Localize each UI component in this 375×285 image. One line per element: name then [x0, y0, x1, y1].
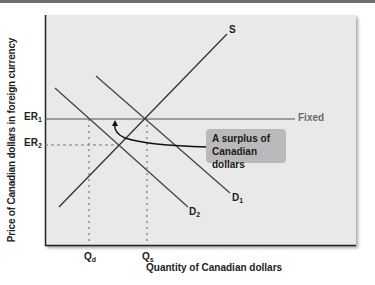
- y-axis-label: Price of Canadian dollars in foreign cur…: [4, 40, 18, 240]
- supply-curve-s: [59, 34, 227, 207]
- x-axis-label: Quantity of Canadian dollars: [146, 262, 282, 273]
- arrowhead-icon: [112, 120, 118, 126]
- tick-er1: ER1: [24, 111, 42, 123]
- fixed-label: Fixed: [298, 112, 324, 123]
- chart-svg: [0, 0, 375, 285]
- tick-qd: Qd: [84, 251, 96, 263]
- demand-curve-d2: [55, 88, 188, 207]
- surplus-annotation-box: A surplus of Canadian dollars: [206, 129, 286, 163]
- label-d1: D1: [232, 192, 243, 204]
- surplus-line-2: Canadian dollars: [212, 145, 280, 171]
- label-s: S: [229, 24, 236, 35]
- surplus-line-1: A surplus of: [212, 132, 280, 145]
- label-d2: D2: [189, 206, 200, 218]
- tick-er2: ER2: [24, 137, 42, 149]
